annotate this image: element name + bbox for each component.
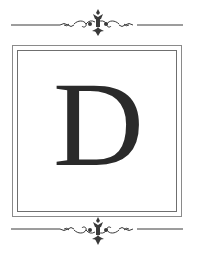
flourish-divider-icon: [0, 6, 197, 36]
monogram-letter: D: [0, 50, 197, 200]
flourish-divider-icon: [0, 215, 197, 245]
